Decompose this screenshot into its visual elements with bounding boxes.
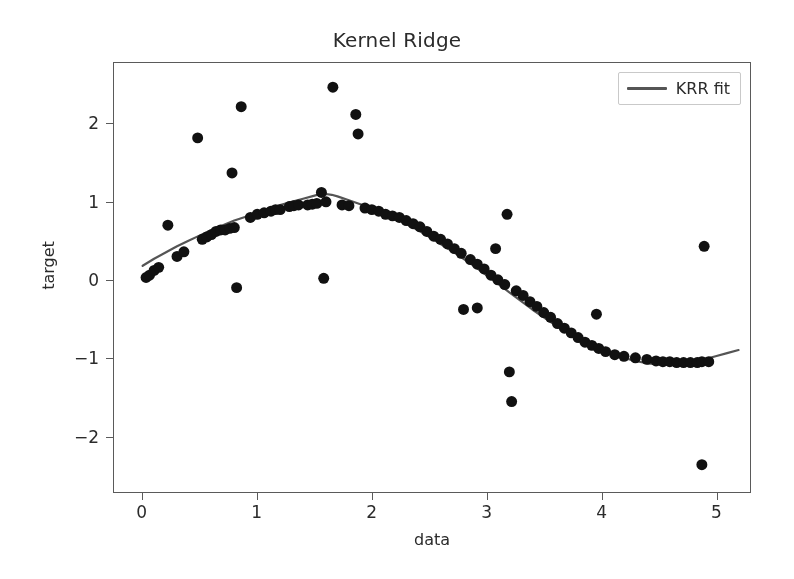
scatter-point: [591, 309, 602, 320]
scatter-point: [502, 209, 513, 220]
scatter-point: [353, 129, 364, 140]
scatter-point: [504, 366, 515, 377]
scatter-point: [178, 246, 189, 257]
y-tick-label: 2: [88, 113, 99, 133]
scatter-point: [630, 352, 641, 363]
y-tick-mark: [106, 202, 113, 203]
scatter-point: [641, 354, 652, 365]
scatter-point: [472, 302, 483, 313]
x-tick-mark: [602, 493, 603, 500]
scatter-point: [327, 82, 338, 93]
scatter-point: [343, 200, 354, 211]
scatter-point: [456, 248, 467, 259]
x-axis-label: data: [113, 530, 751, 549]
scatter-point: [229, 222, 240, 233]
krr-fit-path: [143, 194, 739, 365]
y-tick-label: −1: [74, 348, 99, 368]
scatter-point: [499, 279, 510, 290]
scatter-point: [458, 304, 469, 315]
scatter-point: [506, 396, 517, 407]
plot-axes-area: KRR fit: [113, 62, 751, 493]
scatter-point: [703, 356, 714, 367]
x-tick-mark: [257, 493, 258, 500]
scatter-point: [153, 262, 164, 273]
kernel-ridge-figure: Kernel Ridge KRR fit 012345 −2−1012 data…: [0, 0, 794, 579]
x-tick-label: 3: [481, 502, 492, 522]
x-tick-mark: [372, 493, 373, 500]
plot-svg: [114, 63, 750, 492]
x-tick-label: 5: [711, 502, 722, 522]
x-tick-label: 2: [366, 502, 377, 522]
scatter-point: [350, 109, 361, 120]
legend: KRR fit: [618, 72, 741, 105]
x-tick-label: 0: [136, 502, 147, 522]
scatter-points: [141, 82, 715, 470]
y-axis-label: target: [39, 206, 58, 326]
x-tick-mark: [717, 493, 718, 500]
x-tick-label: 1: [251, 502, 262, 522]
legend-line-swatch: [627, 87, 667, 90]
scatter-point: [162, 220, 173, 231]
y-tick-label: 0: [88, 270, 99, 290]
y-tick-label: −2: [74, 427, 99, 447]
scatter-point: [699, 241, 710, 252]
y-tick-mark: [106, 358, 113, 359]
y-tick-label: 1: [88, 192, 99, 212]
y-tick-mark: [106, 123, 113, 124]
x-tick-mark: [487, 493, 488, 500]
scatter-point: [618, 351, 629, 362]
scatter-point: [609, 349, 620, 360]
scatter-point: [227, 168, 238, 179]
scatter-point: [231, 282, 242, 293]
krr-fit-line: [143, 194, 739, 365]
scatter-point: [490, 243, 501, 254]
page-title: Kernel Ridge: [0, 28, 794, 52]
y-tick-mark: [106, 280, 113, 281]
x-tick-label: 4: [596, 502, 607, 522]
legend-label: KRR fit: [676, 79, 730, 98]
y-tick-mark: [106, 437, 113, 438]
scatter-point: [236, 101, 247, 112]
scatter-point: [318, 273, 329, 284]
x-tick-mark: [142, 493, 143, 500]
scatter-point: [311, 198, 322, 209]
scatter-point: [696, 459, 707, 470]
scatter-point: [192, 132, 203, 143]
scatter-point: [316, 187, 327, 198]
scatter-point: [321, 196, 332, 207]
